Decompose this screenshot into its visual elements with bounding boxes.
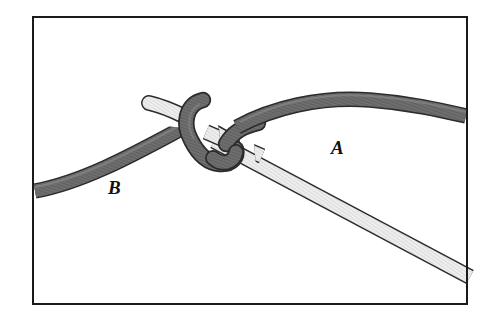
knot-drawing: [0, 0, 490, 327]
rope-b-label: B: [108, 178, 121, 197]
rope-a-label: A: [331, 138, 344, 157]
knot-illustration: A B: [0, 0, 490, 327]
